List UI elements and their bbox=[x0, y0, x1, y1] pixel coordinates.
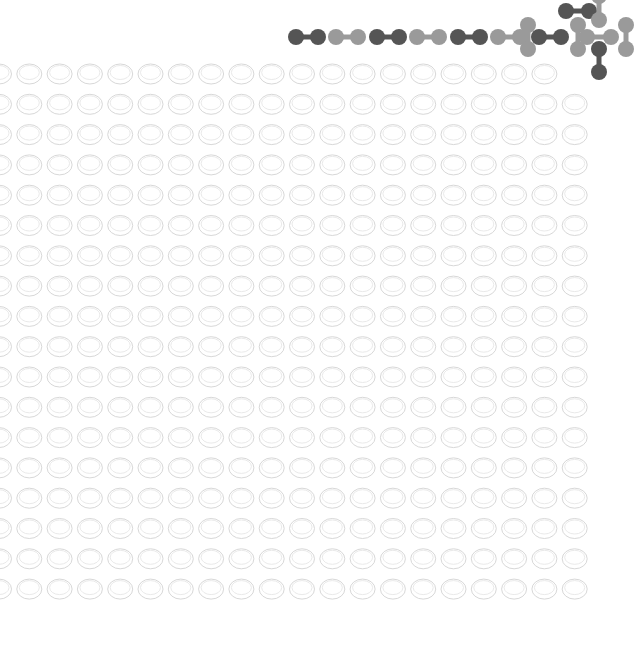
oval-cell bbox=[502, 397, 527, 417]
oval-cell bbox=[199, 367, 224, 387]
oval-cell bbox=[259, 216, 284, 236]
oval-cell bbox=[108, 306, 133, 326]
oval-cell bbox=[380, 519, 405, 539]
oval-cell bbox=[229, 519, 254, 539]
oval-cell bbox=[562, 579, 587, 599]
oval-cell bbox=[411, 64, 436, 84]
oval-cell bbox=[471, 549, 496, 569]
oval-cell bbox=[108, 458, 133, 478]
oval-cell bbox=[47, 337, 72, 357]
oval-cell bbox=[138, 64, 163, 84]
oval-cell bbox=[168, 125, 193, 145]
oval-cell bbox=[199, 337, 224, 357]
oval-cell bbox=[138, 337, 163, 357]
oval-cell bbox=[47, 185, 72, 205]
oval-cell bbox=[17, 428, 42, 448]
oval-cell bbox=[411, 246, 436, 266]
oval-cell bbox=[47, 306, 72, 326]
oval-cell bbox=[168, 185, 193, 205]
oval-cell bbox=[290, 579, 315, 599]
oval-cell bbox=[471, 94, 496, 114]
oval-cell bbox=[320, 64, 345, 84]
oval-cell bbox=[199, 488, 224, 508]
oval-cell bbox=[77, 216, 102, 236]
oval-cell bbox=[290, 549, 315, 569]
molecule-icon bbox=[591, 41, 607, 80]
oval-cell bbox=[411, 94, 436, 114]
oval-cell bbox=[532, 488, 557, 508]
oval-cell bbox=[411, 155, 436, 175]
oval-cell bbox=[290, 246, 315, 266]
oval-cell bbox=[108, 337, 133, 357]
oval-cell bbox=[138, 276, 163, 296]
oval-cell bbox=[108, 428, 133, 448]
oval-cell bbox=[168, 216, 193, 236]
oval-cell bbox=[441, 549, 466, 569]
oval-cell bbox=[138, 246, 163, 266]
oval-cell bbox=[350, 367, 375, 387]
oval-cell bbox=[441, 216, 466, 236]
oval-cell bbox=[562, 367, 587, 387]
oval-cell bbox=[290, 306, 315, 326]
oval-cell bbox=[0, 549, 12, 569]
oval-cell bbox=[562, 549, 587, 569]
oval-cell bbox=[259, 579, 284, 599]
oval-cell bbox=[471, 488, 496, 508]
oval-cell bbox=[502, 458, 527, 478]
oval-cell bbox=[138, 125, 163, 145]
oval-cell bbox=[532, 185, 557, 205]
oval-cell bbox=[17, 306, 42, 326]
oval-cell bbox=[0, 428, 12, 448]
oval-cell bbox=[77, 125, 102, 145]
oval-cell bbox=[441, 428, 466, 448]
oval-cell bbox=[350, 64, 375, 84]
oval-cell bbox=[502, 337, 527, 357]
oval-cell bbox=[47, 488, 72, 508]
oval-cell bbox=[0, 185, 12, 205]
oval-cell bbox=[77, 428, 102, 448]
oval-cell bbox=[350, 276, 375, 296]
oval-cell bbox=[532, 276, 557, 296]
oval-cell bbox=[229, 246, 254, 266]
oval-cell bbox=[441, 155, 466, 175]
oval-cell bbox=[502, 64, 527, 84]
oval-cell bbox=[199, 246, 224, 266]
oval-cell bbox=[17, 367, 42, 387]
oval-cell bbox=[17, 519, 42, 539]
oval-cell bbox=[380, 579, 405, 599]
oval-cell bbox=[350, 125, 375, 145]
oval-cell bbox=[290, 155, 315, 175]
oval-cell bbox=[199, 306, 224, 326]
oval-cell bbox=[380, 367, 405, 387]
oval-cell bbox=[441, 246, 466, 266]
oval-cell bbox=[108, 155, 133, 175]
oval-cell bbox=[229, 428, 254, 448]
oval-cell bbox=[77, 579, 102, 599]
oval-cell bbox=[199, 64, 224, 84]
oval-cell bbox=[532, 125, 557, 145]
oval-cell bbox=[259, 64, 284, 84]
oval-cell bbox=[17, 216, 42, 236]
oval-cell bbox=[320, 216, 345, 236]
oval-cell bbox=[502, 216, 527, 236]
oval-cell bbox=[47, 458, 72, 478]
oval-cell bbox=[350, 519, 375, 539]
oval-cell bbox=[168, 337, 193, 357]
oval-cell bbox=[502, 306, 527, 326]
oval-cell bbox=[0, 488, 12, 508]
oval-cell bbox=[320, 367, 345, 387]
oval-cell bbox=[471, 276, 496, 296]
oval-cell bbox=[17, 64, 42, 84]
oval-cell bbox=[411, 549, 436, 569]
oval-cell bbox=[259, 125, 284, 145]
oval-cell bbox=[532, 367, 557, 387]
oval-cell bbox=[17, 458, 42, 478]
oval-cell bbox=[199, 519, 224, 539]
oval-cell bbox=[471, 125, 496, 145]
oval-cell bbox=[411, 337, 436, 357]
oval-cell bbox=[562, 458, 587, 478]
oval-cell bbox=[441, 337, 466, 357]
oval-cell bbox=[17, 125, 42, 145]
oval-cell bbox=[502, 519, 527, 539]
oval-cell bbox=[380, 488, 405, 508]
